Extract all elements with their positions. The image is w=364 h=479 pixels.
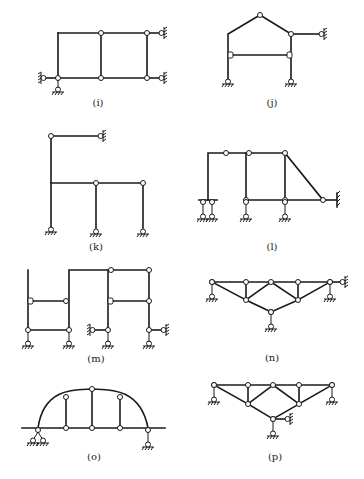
panel-k — [45, 130, 149, 237]
panel-label-o: (o) — [87, 451, 101, 462]
structural-diagrams — [0, 0, 364, 479]
panel-label-k: (k) — [89, 241, 103, 252]
panel-n — [206, 276, 348, 332]
panel-label-l: (l) — [266, 241, 277, 252]
panel-i — [38, 27, 167, 95]
panel-label-i: (i) — [92, 97, 103, 108]
panel-label-n: (n) — [265, 352, 279, 363]
panel-label-p: (p) — [268, 451, 282, 462]
panel-o — [22, 387, 165, 451]
panel-label-j: (j) — [267, 97, 278, 108]
panel-l — [197, 151, 340, 223]
panel-j — [222, 13, 327, 88]
panel-m — [22, 268, 169, 350]
panel-label-m: (m) — [87, 353, 104, 364]
panel-p — [208, 383, 338, 440]
